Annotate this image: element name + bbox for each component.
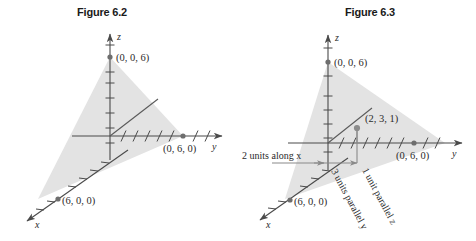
x-axis-label: x [265, 219, 271, 230]
z-axis-label: z [116, 31, 121, 42]
z-intercept-label: (0, 0, 6) [116, 52, 150, 64]
x-axis-label: x [34, 219, 40, 230]
y-axis-label: y [211, 141, 217, 152]
figure-6-3: Figure 6.3 z [238, 0, 476, 241]
figure-6-3-canvas: z y x [238, 0, 476, 241]
figure-6-2-canvas: z y x [0, 0, 238, 241]
figure-6-2: Figure 6.2 z [0, 0, 238, 241]
x-intercept-label: (6, 0, 0) [62, 195, 96, 207]
z-intercept-label: (0, 0, 6) [334, 57, 368, 69]
z-axis-label: z [334, 32, 339, 43]
z-intercept-dot [107, 54, 112, 59]
x-intercept-label: (6, 0, 0) [294, 196, 328, 208]
y-intercept-dot [411, 140, 416, 145]
x-intercept-dot [287, 197, 292, 202]
x-intercept-dot [55, 196, 60, 201]
y-axis-label: y [451, 148, 457, 159]
plotted-point-dot [354, 125, 360, 131]
y-intercept-label: (0, 6, 0) [396, 150, 430, 162]
figure-page: Figure 6.2 z [0, 0, 476, 241]
plotted-point-label: (2, 3, 1) [365, 113, 399, 125]
z-intercept-dot [325, 59, 330, 64]
y-intercept-dot [180, 133, 185, 138]
y-intercept-label: (0, 6, 0) [163, 143, 197, 155]
step-x-annotation: 2 units along x [242, 150, 301, 161]
